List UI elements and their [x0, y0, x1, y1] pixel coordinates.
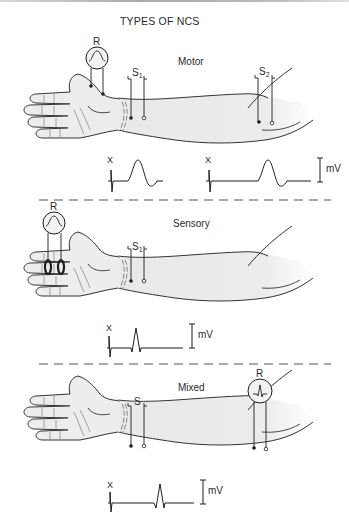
motor-stim-marker-1: X	[107, 155, 113, 165]
mixed-s-label: S	[134, 396, 141, 407]
motor-recording-label: R	[93, 36, 100, 47]
ncs-illustration	[0, 0, 349, 528]
mixed-stim-marker: X	[107, 480, 113, 490]
s1-letter: S	[132, 67, 139, 78]
s2-letter: S	[259, 66, 266, 77]
motor-panel-title: Motor	[178, 56, 204, 67]
s2-subscript: 2	[266, 71, 270, 78]
motor-stim-marker-2: X	[205, 155, 211, 165]
mixed-panel-title: Mixed	[178, 382, 205, 393]
sensory-scale-label: mV	[198, 329, 213, 340]
sensory-stim-marker: X	[106, 323, 112, 333]
mixed-panel	[24, 370, 315, 512]
s1-subscript: 1	[139, 72, 143, 79]
motor-s2-label: S2	[259, 66, 270, 77]
ncs-diagram: TYPES OF NCS	[0, 0, 349, 528]
sensory-panel-title: Sensory	[173, 218, 210, 229]
sensory-panel	[24, 212, 315, 357]
mixed-recording-label: R	[256, 368, 263, 379]
motor-panel	[24, 47, 323, 192]
sensory-s1-label: S1	[132, 241, 143, 252]
mixed-scale-label: mV	[208, 485, 223, 496]
sensory-recording-label: R	[50, 201, 57, 212]
s1-subscript: 1	[139, 246, 143, 253]
motor-s1-label: S1	[132, 67, 143, 78]
s1-letter: S	[132, 241, 139, 252]
motor-scale-label: mV	[326, 163, 341, 174]
